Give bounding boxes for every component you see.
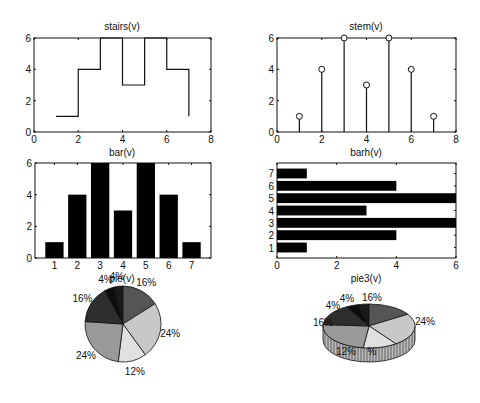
stem-marker (431, 113, 437, 119)
pie3-label: 4% (326, 300, 341, 311)
bar (277, 193, 456, 203)
x-tick-label: 2 (334, 260, 340, 271)
y-tick-label: 3 (268, 218, 274, 229)
y-tick-label: 0 (25, 127, 31, 138)
pie3-label: 4% (340, 293, 355, 304)
stem-marker (341, 35, 347, 41)
x-tick-label: 2 (319, 134, 325, 145)
stem-marker (364, 82, 370, 88)
y-tick-label: 6 (26, 158, 32, 169)
bar (114, 211, 132, 259)
x-tick-label: 4 (120, 134, 126, 145)
bar (91, 163, 109, 258)
y-tick-label: 2 (268, 230, 274, 241)
pie3-label: 16% (313, 317, 333, 328)
x-tick-label: 3 (97, 260, 103, 271)
y-tick-label: 4 (268, 64, 274, 75)
y-tick-label: 2 (25, 96, 31, 107)
x-tick-label: 4 (394, 260, 400, 271)
pie-label: 16% (72, 293, 92, 304)
x-tick-label: 4 (364, 134, 370, 145)
stem-marker (408, 66, 414, 72)
y-tick-label: 6 (25, 33, 31, 44)
y-tick-label: 4 (26, 190, 32, 201)
pie-title: pie(v) (109, 273, 134, 284)
barh-title: barh(v) (350, 147, 382, 158)
bar-plot: 02461234567 (26, 158, 211, 271)
bar (68, 195, 86, 258)
y-tick-label: 6 (268, 181, 274, 192)
x-tick-label: 8 (453, 134, 459, 145)
stem-marker (386, 35, 392, 41)
stairs-plot: 024680246 (25, 33, 214, 145)
pie-label: 24% (160, 328, 180, 339)
y-tick-label: 4 (25, 64, 31, 75)
y-tick-label: 6 (268, 33, 274, 44)
x-tick-label: 8 (208, 134, 214, 145)
y-tick-label: 1 (268, 243, 274, 254)
y-tick-label: 0 (26, 253, 32, 264)
y-tick-label: 2 (26, 221, 32, 232)
x-tick-label: 1 (52, 260, 58, 271)
figure-canvas: 024680246 024680246 02461234567 02461234… (0, 0, 480, 403)
bar (137, 163, 155, 258)
y-tick-label: 0 (268, 127, 274, 138)
bar (277, 230, 396, 240)
x-tick-label: 4 (120, 260, 126, 271)
bar (277, 169, 307, 179)
barh-plot: 02461234567 (268, 163, 459, 271)
x-tick-label: 2 (75, 260, 81, 271)
bar-title: bar(v) (109, 147, 135, 158)
bar (277, 218, 456, 228)
x-tick-label: 0 (274, 260, 280, 271)
x-tick-label: 6 (164, 134, 170, 145)
pie-label: 16% (136, 277, 156, 288)
stairs-line (56, 38, 189, 116)
x-tick-label: 0 (274, 134, 280, 145)
stem-marker (319, 66, 325, 72)
bar (277, 181, 396, 191)
pie3-label: % (368, 346, 377, 357)
bar (277, 206, 367, 216)
stem-title: stem(v) (349, 21, 382, 32)
pie-plot: 4%16%24%12%24%16%4% (72, 271, 180, 376)
stairs-title: stairs(v) (104, 21, 140, 32)
stem-marker (296, 113, 302, 119)
y-tick-label: 7 (268, 168, 274, 179)
pie-label: 12% (125, 366, 145, 377)
pie3-label: 16% (362, 292, 382, 303)
x-tick-label: 7 (189, 260, 195, 271)
pie3-title: pie3(v) (351, 273, 382, 284)
x-tick-label: 6 (408, 134, 414, 145)
x-tick-label: 2 (75, 134, 81, 145)
stem-plot: 024680246 (268, 33, 459, 145)
bar (277, 243, 307, 253)
pie3-plot: 4%4%16%24%16%12%% (313, 292, 435, 362)
x-tick-label: 6 (453, 260, 459, 271)
y-tick-label: 2 (268, 96, 274, 107)
bar (182, 242, 200, 258)
x-tick-label: 6 (166, 260, 172, 271)
pie3-label: 12% (336, 346, 356, 357)
y-tick-label: 4 (268, 206, 274, 217)
y-tick-label: 5 (268, 193, 274, 204)
bar (45, 242, 63, 258)
pie-label: 24% (76, 350, 96, 361)
pie3-label: 24% (415, 316, 435, 327)
bar (160, 195, 178, 258)
x-tick-label: 0 (31, 134, 37, 145)
x-tick-label: 5 (143, 260, 149, 271)
